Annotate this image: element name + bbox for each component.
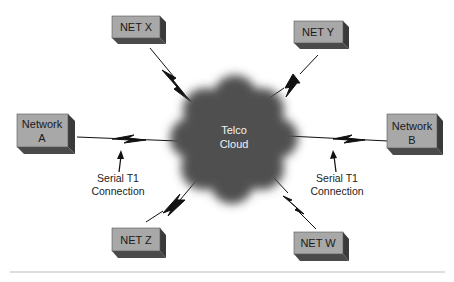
- network-diagram: Telco Cloud NET X NET Y Network A Networ…: [0, 0, 454, 282]
- network-a-label-line2: A: [38, 132, 46, 144]
- link-net-y: [268, 55, 318, 99]
- network-b-label-line1: Network: [392, 120, 433, 132]
- link-net-z: [146, 181, 196, 222]
- annotation-right-line1: Serial T1: [316, 172, 358, 184]
- net-y-label: NET Y: [302, 26, 335, 38]
- node-network-a: Network A: [17, 114, 75, 154]
- annotation-right: Serial T1 Connection: [310, 150, 363, 197]
- net-w-label: NET W: [300, 237, 336, 249]
- telco-cloud: Telco Cloud: [170, 75, 298, 204]
- node-net-z: NET Z: [112, 228, 166, 258]
- net-z-label: NET Z: [120, 234, 152, 246]
- arrow-up-icon: [334, 156, 336, 172]
- link-net-x: [150, 48, 192, 102]
- link-network-b: [288, 135, 388, 143]
- network-b-label-line2: B: [408, 134, 415, 146]
- annotation-right-line2: Connection: [310, 185, 363, 197]
- node-net-y: NET Y: [294, 21, 349, 49]
- node-net-w: NET W: [294, 232, 349, 261]
- annotation-left-line2: Connection: [91, 185, 144, 197]
- annotation-left: Serial T1 Connection: [91, 150, 144, 197]
- network-a-label-line1: Network: [22, 118, 63, 130]
- cloud-label-line2: Cloud: [220, 138, 249, 150]
- net-x-label: NET X: [120, 21, 153, 33]
- cloud-label-line1: Telco: [221, 124, 247, 136]
- annotation-left-line1: Serial T1: [97, 172, 139, 184]
- link-network-a: [77, 135, 178, 143]
- node-network-b: Network B: [387, 114, 443, 155]
- node-net-x: NET X: [112, 16, 166, 44]
